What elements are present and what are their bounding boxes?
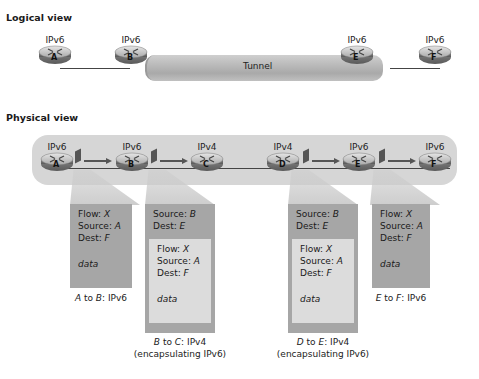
protocol-label: IPv6 xyxy=(112,142,152,152)
dest-field: Dest: F xyxy=(149,267,211,279)
flow-field: Flow: X xyxy=(292,243,354,255)
logical-router-a: IPv6 A xyxy=(38,35,75,69)
protocol-label: IPv6 xyxy=(35,35,75,45)
caption-a-to-b: A to B: IPv6 xyxy=(56,292,146,304)
physical-router-b: IPv6 B xyxy=(115,142,152,176)
flow-field: Flow: X xyxy=(70,208,132,220)
inner-ipv6-datagram: Flow: X Source: A Dest: F data xyxy=(149,239,211,323)
caption-d-to-e: D to E: IPv4 (encapsulating IPv6) xyxy=(268,336,378,360)
source-field: Source: A xyxy=(70,220,132,232)
router-id: E xyxy=(355,160,360,169)
protocol-label: IPv6 xyxy=(339,142,379,152)
caption-b-to-c: B to C: IPv4 (encapsulating IPv6) xyxy=(125,336,235,360)
outer-source-field: Source: B xyxy=(145,208,215,220)
tunnel-label: Tunnel xyxy=(243,61,272,71)
packet-a-to-b: Flow: X Source: A Dest: F data xyxy=(70,204,132,288)
dest-field: Dest: F xyxy=(292,267,354,279)
data-field: data xyxy=(292,293,354,305)
router-id: C xyxy=(203,160,209,169)
physical-router-c: IPv4 C xyxy=(190,142,227,176)
data-field: data xyxy=(70,258,132,270)
outer-dest-field: Dest: E xyxy=(145,220,215,232)
data-field: data xyxy=(149,293,211,305)
packet-d-to-e: Source: B Dest: E Flow: X Source: A Dest… xyxy=(288,204,358,333)
protocol-label: IPv6 xyxy=(37,142,77,152)
arrowhead-icon xyxy=(182,158,188,164)
arrow-right-icon xyxy=(312,160,334,162)
logical-router-f: IPv6 F xyxy=(418,35,455,69)
flow-field: Flow: X xyxy=(149,243,211,255)
physical-router-d: IPv4 D xyxy=(266,142,303,176)
physical-router-f: IPv6 F xyxy=(418,142,455,176)
inner-ipv6-datagram: Flow: X Source: A Dest: F data xyxy=(292,239,354,323)
protocol-label: IPv6 xyxy=(337,35,377,45)
arrow-right-icon xyxy=(160,160,182,162)
protocol-label: IPv4 xyxy=(187,142,227,152)
router-id: D xyxy=(279,160,286,169)
source-field: Source: A xyxy=(292,255,354,267)
arrow-right-icon xyxy=(388,160,410,162)
source-field: Source: A xyxy=(372,220,430,232)
caption-e-to-f: E to F: IPv6 xyxy=(356,292,446,304)
router-id: E xyxy=(353,53,358,62)
protocol-label: IPv6 xyxy=(111,35,151,45)
dest-field: Dest: F xyxy=(70,232,132,244)
router-id: B xyxy=(128,160,134,169)
logical-view-title: Logical view xyxy=(6,12,72,23)
physical-router-e: IPv6 E xyxy=(342,142,379,176)
packet-b-to-c: Source: B Dest: E Flow: X Source: A Dest… xyxy=(145,204,215,333)
dest-field: Dest: F xyxy=(372,232,430,244)
router-id: F xyxy=(431,160,436,169)
logical-router-b: IPv6 B xyxy=(114,35,151,69)
arrowhead-icon xyxy=(334,158,340,164)
physical-view-title: Physical view xyxy=(6,112,78,123)
protocol-label: IPv4 xyxy=(263,142,303,152)
outer-dest-field: Dest: E xyxy=(288,220,358,232)
physical-router-a: IPv6 A xyxy=(40,142,77,176)
logical-router-e: IPv6 E xyxy=(340,35,377,69)
data-field: data xyxy=(372,258,430,270)
router-id: A xyxy=(53,160,59,169)
arrowhead-icon xyxy=(106,158,112,164)
router-id: F xyxy=(431,53,436,62)
packet-e-to-f: Flow: X Source: A Dest: F data xyxy=(372,204,430,288)
router-id: B xyxy=(127,53,133,62)
arrowhead-icon xyxy=(410,158,416,164)
outer-source-field: Source: B xyxy=(288,208,358,220)
source-field: Source: A xyxy=(149,255,211,267)
protocol-label: IPv6 xyxy=(415,142,455,152)
protocol-label: IPv6 xyxy=(415,35,455,45)
router-id: A xyxy=(51,53,57,62)
flow-field: Flow: X xyxy=(372,208,430,220)
arrow-right-icon xyxy=(84,160,106,162)
